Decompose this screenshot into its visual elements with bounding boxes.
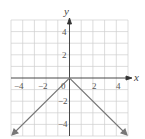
x-tick: 0 bbox=[61, 82, 66, 91]
graph bbox=[0, 0, 145, 139]
y-tick: −4 bbox=[58, 120, 68, 129]
x-tick: −4 bbox=[14, 82, 24, 91]
x-tick: −2 bbox=[38, 82, 48, 91]
x-tick: 4 bbox=[116, 82, 121, 91]
y-tick: 2 bbox=[62, 51, 67, 60]
x-axis-label: x bbox=[134, 72, 139, 83]
y-axis-label: y bbox=[64, 6, 69, 17]
x-tick: 2 bbox=[92, 82, 97, 91]
y-tick: 4 bbox=[62, 28, 67, 37]
y-tick: −2 bbox=[58, 97, 68, 106]
